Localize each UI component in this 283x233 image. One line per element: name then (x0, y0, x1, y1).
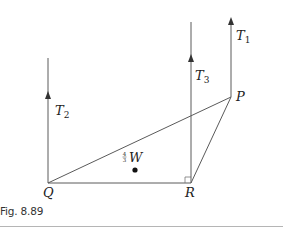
weight-symbol: W (129, 150, 144, 165)
force-diagram: T2 T3 T1 P Q R 4 3 W (0, 0, 283, 233)
label-weight: 4 3 W (123, 150, 145, 165)
weight-fraction-numerator: 4 (123, 151, 127, 157)
weight-point-icon (132, 167, 137, 172)
right-angle-marker (185, 177, 191, 183)
weight-fraction-denominator: 3 (123, 157, 127, 163)
figure-caption: Fig. 8.89 (0, 205, 43, 217)
label-t1: T1 (236, 28, 250, 45)
label-point-q: Q (43, 185, 54, 200)
label-t3: T3 (195, 68, 210, 85)
edge-q-p (48, 97, 231, 183)
arrow-up-icon-t2 (45, 91, 51, 99)
caption-divider (0, 226, 283, 227)
label-t2: T2 (55, 103, 69, 120)
arrow-up-icon-t1 (228, 17, 234, 25)
label-point-p: P (235, 89, 245, 104)
label-point-r: R (184, 185, 195, 200)
edge-p-r (191, 97, 231, 183)
arrow-up-icon-t3 (188, 54, 194, 62)
